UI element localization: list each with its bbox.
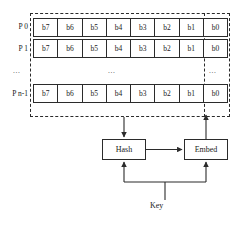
embed-block: Embed <box>184 139 228 160</box>
figure-canvas: P 0 P 1 P n-1 b7 b6 b5 b4 b3 b2 b1 b0 b7… <box>0 0 241 227</box>
connector-wires <box>0 0 241 227</box>
key-label: Key <box>150 202 163 210</box>
hash-block: Hash <box>102 139 146 160</box>
